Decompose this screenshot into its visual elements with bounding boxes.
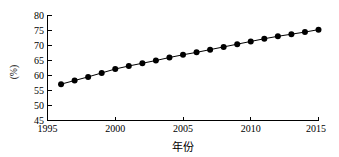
data-point	[248, 38, 254, 44]
chart-figure: 80 75 70 65 60 55 50 45 (%) 1995 2000 20…	[0, 0, 339, 157]
data-point	[234, 41, 240, 47]
data-point	[58, 81, 64, 87]
data-point	[302, 29, 308, 35]
y-tick-label-60: 60	[34, 70, 44, 81]
data-point	[139, 60, 145, 66]
x-axis-ticks	[48, 117, 319, 121]
data-point	[166, 55, 172, 61]
data-point	[194, 49, 200, 55]
y-tick-label-55: 55	[34, 85, 44, 96]
data-point	[275, 33, 281, 39]
axis-spines	[48, 15, 319, 121]
data-point	[153, 58, 159, 64]
data-point	[72, 78, 78, 84]
x-tick-label-1995: 1995	[38, 123, 58, 134]
data-point	[288, 31, 294, 37]
y-tick-label-70: 70	[34, 40, 44, 51]
data-point	[112, 66, 118, 72]
y-axis-tick-labels: 80 75 70 65 60 55 50 45	[34, 10, 44, 126]
data-point	[316, 27, 322, 33]
x-tick-label-2000: 2000	[105, 123, 125, 134]
x-tick-label-2015: 2015	[306, 123, 326, 134]
data-point	[207, 47, 213, 53]
y-tick-label-80: 80	[34, 10, 44, 21]
data-point	[221, 44, 227, 50]
x-tick-label-2005: 2005	[173, 123, 193, 134]
y-axis-title: (%)	[9, 65, 20, 79]
data-point	[126, 63, 132, 69]
data-point	[85, 74, 91, 80]
y-tick-label-65: 65	[34, 55, 44, 66]
plot-frame	[48, 15, 319, 121]
x-axis-title: 年份	[172, 140, 194, 154]
x-tick-label-2010: 2010	[241, 123, 261, 134]
y-axis-ticks	[48, 16, 52, 121]
data-point	[99, 70, 105, 76]
data-point	[180, 52, 186, 58]
data-point	[261, 36, 267, 42]
x-axis-tick-labels: 1995 2000 2005 2010 2015	[38, 123, 327, 134]
line-chart: 80 75 70 65 60 55 50 45 (%) 1995 2000 20…	[0, 0, 339, 157]
y-tick-label-50: 50	[34, 100, 44, 111]
y-tick-label-75: 75	[34, 25, 44, 36]
